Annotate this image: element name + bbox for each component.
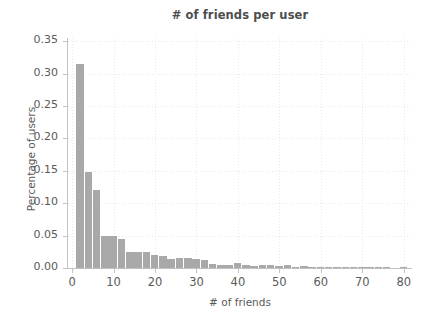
plot-area: [68, 38, 412, 268]
bar: [192, 259, 199, 268]
x-tick-mark: [238, 269, 239, 273]
x-tick-label: 70: [342, 275, 382, 289]
x-tick-label: 40: [218, 275, 258, 289]
bar: [126, 252, 133, 268]
y-axis-spine: [67, 38, 68, 269]
x-tick-mark: [196, 269, 197, 273]
x-tick-label: 30: [176, 275, 216, 289]
y-tick-mark: [63, 41, 67, 42]
bar: [184, 258, 191, 268]
x-axis-spine: [67, 268, 412, 269]
x-tick-label: 50: [259, 275, 299, 289]
y-tick-label: 0.30: [18, 66, 58, 79]
y-tick-mark: [63, 138, 67, 139]
x-tick-mark: [362, 269, 363, 273]
y-tick-mark: [63, 171, 67, 172]
x-tick-mark: [72, 269, 73, 273]
y-tick-mark: [63, 268, 67, 269]
bar: [167, 259, 174, 268]
x-tick-mark: [279, 269, 280, 273]
bar-series: [68, 38, 412, 268]
bar: [201, 260, 208, 268]
y-tick-label: 0.35: [18, 33, 58, 46]
x-axis-label: # of friends: [68, 296, 412, 308]
x-tick-label: 80: [384, 275, 424, 289]
y-tick-mark: [63, 74, 67, 75]
y-tick-mark: [63, 203, 67, 204]
bar: [159, 256, 166, 268]
x-tick-mark: [155, 269, 156, 273]
bar: [85, 172, 92, 268]
bar: [118, 239, 125, 268]
bar: [151, 255, 158, 268]
y-axis-label: Percentage of users: [25, 59, 37, 259]
bar: [101, 236, 108, 268]
y-tick-label: 0.25: [18, 98, 58, 111]
x-tick-label: 0: [52, 275, 92, 289]
y-tick-label: 0.00: [18, 260, 58, 273]
chart-title: # of friends per user: [68, 8, 412, 22]
chart-figure: # of friends per user 0.000.050.100.150.…: [0, 0, 432, 322]
x-tick-mark: [321, 269, 322, 273]
bar: [134, 252, 141, 268]
bar: [176, 258, 183, 268]
x-tick-label: 10: [94, 275, 134, 289]
y-tick-label: 0.15: [18, 163, 58, 176]
bar: [93, 190, 100, 268]
y-tick-mark: [63, 236, 67, 237]
x-tick-label: 20: [135, 275, 175, 289]
bar: [76, 64, 83, 268]
bar: [109, 236, 116, 268]
bar: [143, 252, 150, 268]
x-tick-mark: [114, 269, 115, 273]
y-tick-mark: [63, 106, 67, 107]
x-tick-mark: [404, 269, 405, 273]
y-tick-label: 0.05: [18, 228, 58, 241]
x-tick-label: 60: [301, 275, 341, 289]
y-tick-label: 0.20: [18, 130, 58, 143]
y-tick-label: 0.10: [18, 195, 58, 208]
